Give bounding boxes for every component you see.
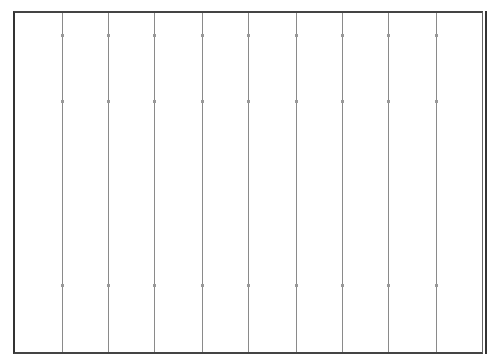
- grid-divider-4: [202, 13, 203, 352]
- grid-divider-7: [342, 13, 343, 352]
- tick-mark: [387, 284, 390, 287]
- tick-mark: [153, 284, 156, 287]
- grid-divider-3: [154, 13, 155, 352]
- tick-mark: [341, 100, 344, 103]
- grid-divider-2: [108, 13, 109, 352]
- grid-divider-1: [62, 13, 63, 352]
- grid-divider-5: [248, 13, 249, 352]
- tick-mark: [341, 284, 344, 287]
- tick-mark: [295, 34, 298, 37]
- tick-mark: [61, 34, 64, 37]
- tick-mark: [107, 34, 110, 37]
- tick-mark: [61, 100, 64, 103]
- tick-mark: [435, 100, 438, 103]
- tick-mark: [435, 34, 438, 37]
- tick-mark: [61, 284, 64, 287]
- tick-mark: [201, 34, 204, 37]
- grid-divider-8: [388, 13, 389, 352]
- tick-mark: [247, 284, 250, 287]
- tick-mark: [295, 284, 298, 287]
- tick-mark: [295, 100, 298, 103]
- tick-mark: [153, 34, 156, 37]
- tick-mark: [107, 284, 110, 287]
- tick-mark: [107, 100, 110, 103]
- tick-mark: [387, 100, 390, 103]
- grid-divider-6: [296, 13, 297, 352]
- tick-mark: [247, 100, 250, 103]
- tick-mark: [387, 34, 390, 37]
- tick-mark: [435, 284, 438, 287]
- tick-mark: [153, 100, 156, 103]
- grid-right-border: [485, 11, 487, 354]
- grid-divider-9: [436, 13, 437, 352]
- tick-mark: [247, 34, 250, 37]
- tick-mark: [201, 284, 204, 287]
- tick-mark: [201, 100, 204, 103]
- tick-mark: [341, 34, 344, 37]
